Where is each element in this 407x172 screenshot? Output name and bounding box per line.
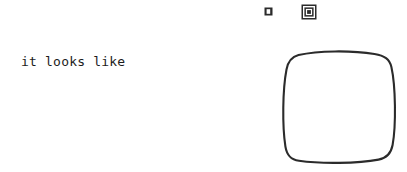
hand-drawn-rounded-square — [276, 45, 403, 172]
small-filled-square-icon[interactable] — [264, 7, 273, 16]
nested-square-icon[interactable] — [301, 4, 317, 20]
drawing-canvas: it looks like — [0, 0, 407, 172]
caption-text: it looks like — [21, 54, 125, 70]
